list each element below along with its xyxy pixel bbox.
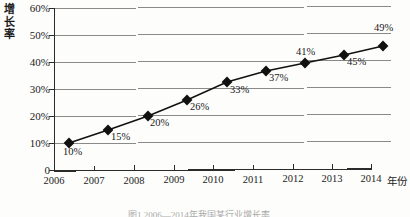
- data-label-2009: 26%: [190, 101, 209, 112]
- data-label-2008: 20%: [150, 117, 169, 128]
- x-tick-label-2011: 2011: [234, 174, 272, 185]
- data-point-2014: [378, 41, 389, 52]
- x-tick-label-2010: 2010: [194, 174, 232, 185]
- grid-line-50: [54, 34, 391, 36]
- grid-line-10: [54, 142, 391, 144]
- data-label-2010: 33%: [230, 84, 249, 95]
- x-tick-label-2014: 2014: [352, 173, 390, 184]
- x-axis-title: 年份: [387, 173, 407, 188]
- x-tick-label-2009: 2009: [155, 174, 193, 185]
- growth-rate-line-chart: 增 长 率 60% 50% 40% 30% 20% 10% 0: [0, 0, 410, 217]
- grid-line-60: [54, 7, 391, 9]
- figure-caption: 图1 2006—2014年我国某行业增长率: [128, 208, 270, 217]
- grid-line-30: [54, 88, 391, 90]
- x-tick-label-2012: 2012: [274, 173, 312, 184]
- data-label-2014: 49%: [374, 22, 393, 33]
- data-label-2012: 41%: [296, 46, 315, 57]
- grid-lines: [54, 7, 391, 144]
- data-label-2011: 37%: [269, 72, 288, 83]
- data-label-2013: 45%: [347, 56, 366, 67]
- x-tick-label-2013: 2013: [313, 173, 351, 184]
- data-label-2007: 15%: [111, 131, 130, 142]
- x-tick-label-2006: 2006: [35, 175, 73, 186]
- grid-line-40: [54, 61, 391, 63]
- data-label-2006: 10%: [63, 146, 82, 157]
- grid-line-20: [54, 115, 391, 117]
- x-tick-label-2008: 2008: [115, 175, 153, 186]
- x-tick-label-2007: 2007: [75, 175, 113, 186]
- y-axis-ticks: [49, 9, 54, 171]
- data-point-2012: [300, 58, 311, 69]
